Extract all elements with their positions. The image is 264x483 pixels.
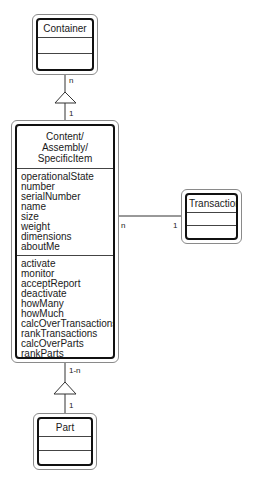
- class-operations-empty: [39, 451, 91, 464]
- class-part-body: Part: [37, 417, 93, 466]
- aggregation-triangle-icon: [54, 382, 76, 394]
- multiplicity-label: n: [69, 77, 73, 85]
- class-operations: activate monitor acceptReport deactivate…: [17, 256, 113, 359]
- class-part[interactable]: Part: [33, 413, 97, 470]
- class-name: Transaction: [187, 195, 236, 213]
- class-name: Content/ Assembly/ SpecificItem: [17, 126, 113, 169]
- class-diagram: n 1 n 1 1-n 1 Container Content/ Assembl…: [0, 0, 264, 483]
- class-operations-empty: [38, 54, 92, 69]
- attribute: aboutMe: [21, 242, 109, 252]
- class-attributes-empty: [38, 38, 92, 54]
- class-transaction[interactable]: Transaction: [181, 189, 242, 244]
- class-name: Part: [39, 419, 91, 437]
- operation: rankParts: [21, 349, 109, 359]
- multiplicity-label: 1: [173, 222, 177, 230]
- class-attributes: operationalState number serialNumber nam…: [17, 169, 113, 256]
- class-container[interactable]: Container: [32, 14, 98, 75]
- class-name-line: Assembly/: [19, 142, 111, 153]
- multiplicity-label: 1-n: [69, 367, 81, 375]
- class-name: Container: [38, 20, 92, 38]
- class-main-body: Content/ Assembly/ SpecificItem operatio…: [15, 124, 115, 359]
- multiplicity-label: 1: [69, 402, 73, 410]
- class-attributes-empty: [187, 213, 236, 226]
- aggregation-triangle-icon: [55, 92, 76, 103]
- class-transaction-body: Transaction: [185, 193, 238, 240]
- class-name-line: Content/: [19, 131, 111, 142]
- multiplicity-label: n: [121, 222, 125, 230]
- class-operations-empty: [187, 226, 236, 238]
- class-attributes-empty: [39, 437, 91, 451]
- class-name-line: SpecificItem: [19, 153, 111, 164]
- class-content-assembly-specificitem[interactable]: Content/ Assembly/ SpecificItem operatio…: [11, 120, 119, 363]
- class-container-body: Container: [36, 18, 94, 71]
- multiplicity-label: 1: [69, 110, 73, 118]
